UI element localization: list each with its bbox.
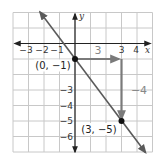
run-label: 3 xyxy=(95,44,102,57)
slope-graph: x y −3 −2 −1 3 4 −3 −4 −5 −6 3 −4 (0, −1… xyxy=(0,0,164,167)
rise-label: −4 xyxy=(131,84,147,97)
x-tick-labels: −3 −2 −1 3 4 xyxy=(19,45,139,55)
y-tick: −4 xyxy=(60,101,74,111)
y-tick: −5 xyxy=(60,116,73,126)
x-tick: −3 xyxy=(19,45,32,55)
point-a-marker xyxy=(72,56,78,62)
x-tick: −2 xyxy=(35,45,48,55)
x-tick: 4 xyxy=(133,45,139,55)
y-tick-labels: −3 −4 −5 −6 xyxy=(60,85,74,142)
point-b-label: (3, −5) xyxy=(81,124,116,135)
x-axis-label: x xyxy=(145,45,150,55)
y-tick: −3 xyxy=(60,85,73,95)
point-a-label: (0, −1) xyxy=(35,60,70,71)
x-tick: 3 xyxy=(119,45,125,55)
y-axis-label: y xyxy=(78,11,85,21)
x-tick: −1 xyxy=(50,45,63,55)
y-tick: −6 xyxy=(60,132,74,142)
point-b-marker xyxy=(119,118,125,124)
